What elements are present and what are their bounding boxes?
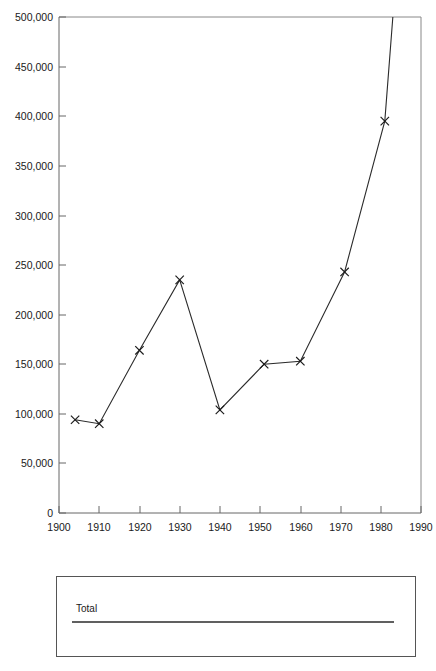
y-tick-label: 0 bbox=[47, 507, 53, 519]
legend-entry-label: Total bbox=[76, 603, 97, 614]
y-tick-label: 300,000 bbox=[15, 210, 53, 222]
y-tick-label: 450,000 bbox=[15, 61, 53, 73]
y-tick-label: 500,000 bbox=[15, 11, 53, 23]
x-tick-label: 1900 bbox=[47, 521, 71, 533]
x-tick-label: 1950 bbox=[248, 521, 272, 533]
y-tick-label: 50,000 bbox=[21, 457, 53, 469]
x-tick-label: 1980 bbox=[369, 521, 393, 533]
x-tick-label: 1990 bbox=[409, 521, 433, 533]
x-tick-label: 1910 bbox=[87, 521, 111, 533]
y-tick-label: 200,000 bbox=[15, 309, 53, 321]
x-tick-label: 1940 bbox=[208, 521, 232, 533]
y-tick-label: 150,000 bbox=[15, 358, 53, 370]
x-tick-label: 1960 bbox=[289, 521, 313, 533]
line-chart-figure: 0 50,000 100,000 150,000 200,000 250,000 bbox=[0, 0, 436, 671]
x-tick-label: 1970 bbox=[329, 521, 353, 533]
x-tick-label: 1920 bbox=[128, 521, 152, 533]
chart-container: 0 50,000 100,000 150,000 200,000 250,000 bbox=[0, 0, 436, 671]
y-tick-label: 100,000 bbox=[15, 408, 53, 420]
x-tick-label: 1930 bbox=[168, 521, 192, 533]
y-tick-label: 400,000 bbox=[15, 110, 53, 122]
y-tick-label: 250,000 bbox=[15, 259, 53, 271]
y-tick-label: 350,000 bbox=[15, 160, 53, 172]
figure-background bbox=[0, 0, 436, 671]
